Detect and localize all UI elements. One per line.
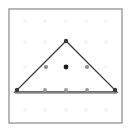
lattice-dot bbox=[64, 108, 68, 112]
vertex-base-right-dot bbox=[113, 88, 117, 92]
lattice-dot bbox=[23, 19, 27, 23]
lattice-dot bbox=[104, 108, 108, 112]
vertex-base-left-dot bbox=[15, 88, 19, 92]
geoboard-canvas bbox=[0, 0, 131, 132]
geoboard-figure bbox=[0, 0, 131, 132]
lattice-dot bbox=[43, 19, 47, 23]
base-point-center-dot bbox=[64, 88, 68, 92]
lattice-dot bbox=[84, 108, 88, 112]
base-point-left-dot bbox=[43, 88, 47, 92]
edge-right-midpoint-dot bbox=[85, 65, 89, 69]
lattice-dot bbox=[84, 19, 88, 23]
edge-left-midpoint-dot bbox=[44, 65, 48, 69]
lattice-dot bbox=[104, 40, 108, 44]
lattice-dot bbox=[104, 19, 108, 23]
lattice-dot bbox=[43, 108, 47, 112]
interior-centroid-dot bbox=[64, 65, 69, 70]
lattice-dot bbox=[23, 65, 27, 69]
lattice-dot bbox=[64, 19, 68, 23]
lattice-dot bbox=[23, 108, 27, 112]
lattice-dot bbox=[43, 40, 47, 44]
vertex-apex-dot bbox=[64, 39, 68, 43]
lattice-dot bbox=[23, 40, 27, 44]
lattice-dot bbox=[104, 65, 108, 69]
base-point-right-dot bbox=[85, 88, 89, 92]
lattice-dot bbox=[84, 40, 88, 44]
